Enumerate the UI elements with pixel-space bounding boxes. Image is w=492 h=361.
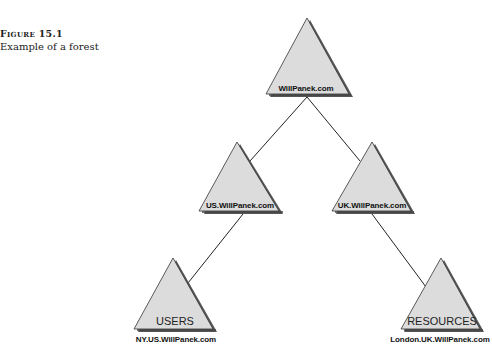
node-role-label: USERS xyxy=(156,315,194,327)
tree-node-london: RESOURCES London.UK.WillPanek.com xyxy=(390,258,489,344)
node-label: US.WillPanek.com xyxy=(206,201,274,210)
edge-root-uk xyxy=(307,97,360,161)
edge-us-ny xyxy=(188,214,243,283)
node-role-label: RESOURCES xyxy=(407,315,477,327)
node-label: WillPanek.com xyxy=(278,84,333,93)
node-label: UK.WillPanek.com xyxy=(338,201,407,210)
tree-node-us: US.WillPanek.com xyxy=(199,142,283,214)
tree-node-ny: USERS NY.US.WillPanek.com xyxy=(134,258,217,344)
edge-uk-london xyxy=(372,214,426,287)
node-label: NY.US.WillPanek.com xyxy=(136,335,216,344)
node-label: London.UK.WillPanek.com xyxy=(390,335,489,344)
forest-diagram: WillPanek.com US.WillPanek.com UK.WillPa… xyxy=(0,0,492,361)
tree-node-root: WillPanek.com xyxy=(266,18,353,97)
tree-node-uk: UK.WillPanek.com xyxy=(332,142,415,214)
triangle-icon xyxy=(266,18,349,94)
edge-root-us xyxy=(250,97,307,161)
